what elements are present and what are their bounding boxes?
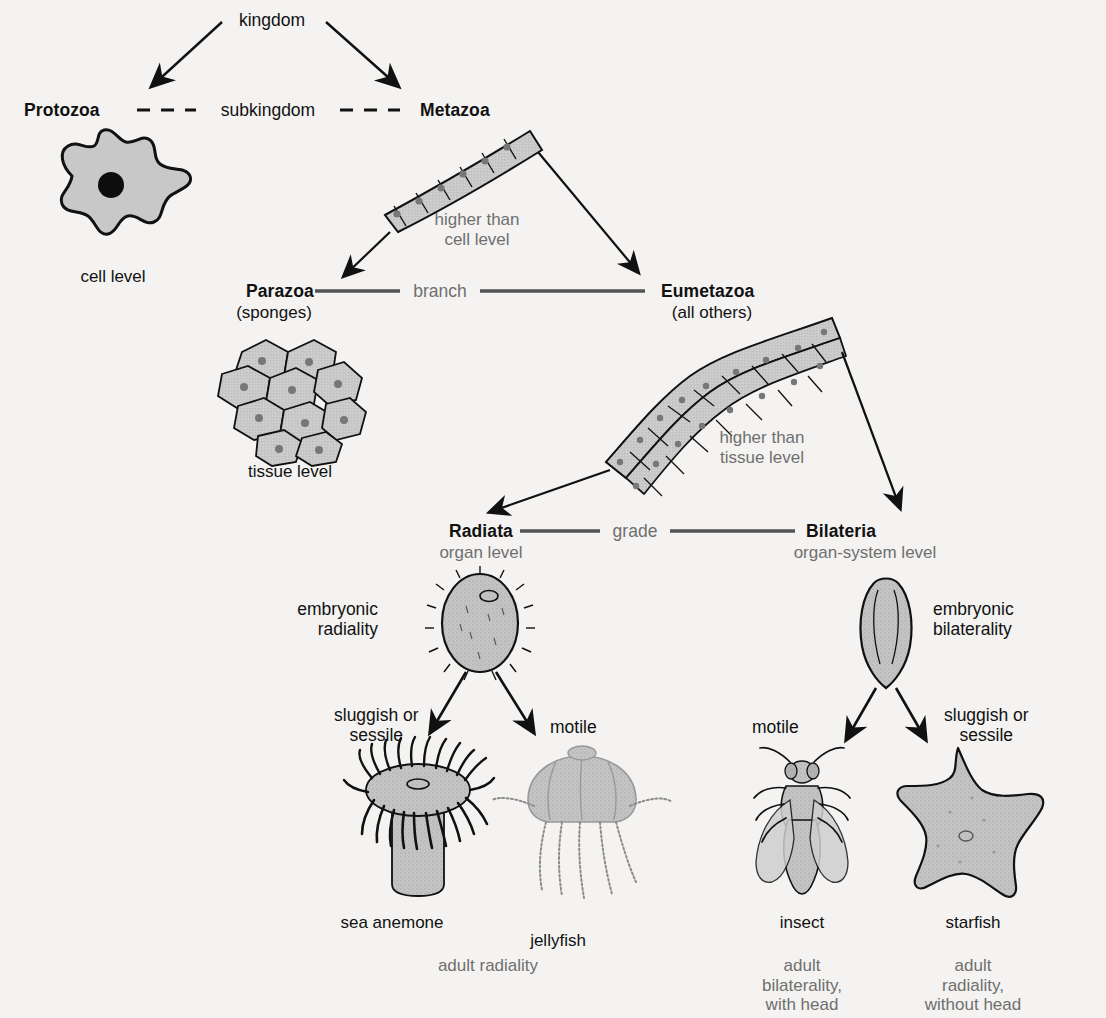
tissue-band-illustration	[606, 318, 846, 496]
bilateria-level-caption: organ-system level	[794, 543, 937, 563]
jellyfish-illustration	[492, 746, 672, 898]
diagram-canvas: kingdom Protozoa subkingdom Metazoa cell…	[0, 0, 1106, 1018]
diagram-graphics	[0, 0, 1106, 1018]
taxon-eumetazoa[interactable]: Eumetazoa	[661, 281, 754, 301]
embryonic-radiality-label: embryonic radiality	[297, 599, 378, 639]
taxon-bilateria[interactable]: Bilateria	[806, 521, 876, 541]
taxon-protozoa[interactable]: Protozoa	[24, 100, 100, 120]
organism-insect: insect	[780, 913, 824, 933]
radiata-level-caption: organ level	[439, 543, 522, 563]
protozoa-level-caption: cell level	[80, 267, 145, 287]
branch-label: branch	[413, 281, 467, 301]
taxon-radiata[interactable]: Radiata	[449, 521, 513, 541]
eumetazoa-qualifier: (all others)	[672, 303, 752, 323]
radiata-motile-label: motile	[550, 717, 597, 737]
taxon-parazoa[interactable]: Parazoa	[246, 281, 314, 301]
embryonic-bilaterality-label: embryonic bilaterality	[933, 599, 1014, 639]
taxon-metazoa[interactable]: Metazoa	[420, 100, 490, 120]
adult-radiality-no-head-note: adult radiality, without head	[925, 956, 1021, 1015]
adult-radiality-note: adult radiality	[438, 956, 538, 976]
sea-anemone-illustration	[344, 737, 494, 896]
kingdom-label: kingdom	[239, 10, 305, 30]
radiata-sessile-label: sluggish or sessile	[334, 705, 419, 745]
amoeba-illustration	[61, 130, 190, 234]
parazoa-qualifier: (sponges)	[236, 303, 312, 323]
bilateria-sessile-label: sluggish or sessile	[944, 705, 1029, 745]
organism-jellyfish: jellyfish	[530, 931, 586, 951]
parazoa-level-caption: tissue level	[248, 462, 332, 482]
higher-than-tissue-level-note: higher than tissue level	[719, 428, 804, 467]
radial-embryo-illustration	[425, 566, 535, 680]
subkingdom-label: subkingdom	[221, 100, 315, 120]
higher-than-cell-level-note: higher than cell level	[434, 210, 519, 249]
adult-bilaterality-note: adult bilaterality, with head	[762, 956, 842, 1015]
grade-label: grade	[613, 521, 658, 541]
starfish-illustration	[897, 748, 1043, 897]
bilateral-embryo-illustration	[861, 579, 912, 689]
organism-sea-anemone: sea anemone	[340, 913, 443, 933]
tissue-cluster-illustration	[218, 340, 366, 466]
organism-starfish: starfish	[946, 913, 1001, 933]
bilateria-motile-label: motile	[752, 717, 799, 737]
insect-illustration	[754, 748, 850, 894]
